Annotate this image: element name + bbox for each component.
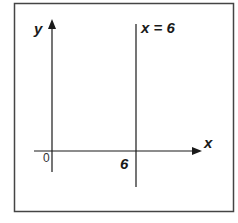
coordinate-diagram: y x = 6 x 0 6 <box>0 0 238 223</box>
y-axis-label: y <box>33 20 43 37</box>
x-axis-arrow-icon <box>192 147 202 155</box>
diagram-frame <box>15 4 234 212</box>
line-equation-label: x = 6 <box>140 19 175 36</box>
origin-label: 0 <box>43 151 50 165</box>
x-tick-label-6: 6 <box>120 155 129 172</box>
y-axis-arrow-icon <box>48 19 56 29</box>
x-axis-label: x <box>203 134 213 151</box>
